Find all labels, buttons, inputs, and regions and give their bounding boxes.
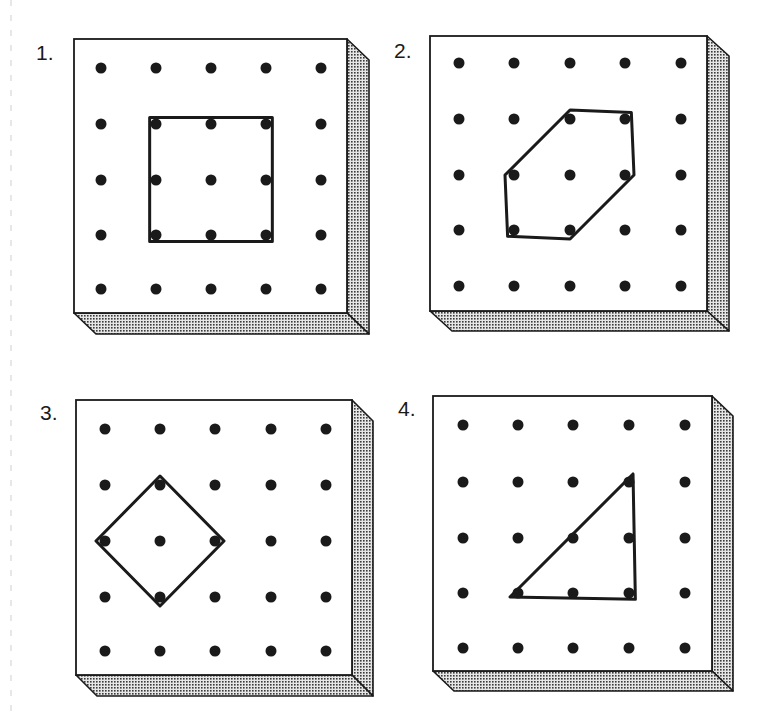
peg bbox=[206, 175, 217, 186]
peg bbox=[454, 281, 465, 292]
peg bbox=[568, 533, 579, 544]
peg bbox=[261, 230, 272, 241]
peg bbox=[680, 643, 691, 654]
peg bbox=[620, 170, 631, 181]
peg bbox=[96, 119, 107, 130]
peg bbox=[261, 175, 272, 186]
geoboard-1: 1. bbox=[36, 39, 369, 334]
peg bbox=[624, 420, 635, 431]
peg bbox=[680, 420, 691, 431]
peg bbox=[565, 58, 576, 69]
peg bbox=[151, 175, 162, 186]
peg bbox=[513, 477, 524, 488]
peg bbox=[155, 480, 166, 491]
peg bbox=[565, 281, 576, 292]
peg bbox=[210, 592, 221, 603]
peg bbox=[100, 480, 111, 491]
peg bbox=[321, 480, 332, 491]
peg bbox=[676, 58, 687, 69]
peg bbox=[316, 230, 327, 241]
peg bbox=[676, 114, 687, 125]
peg bbox=[316, 284, 327, 295]
board-side-right bbox=[707, 36, 729, 331]
geoboard-3: 3. bbox=[40, 400, 373, 696]
peg bbox=[151, 63, 162, 74]
peg bbox=[155, 646, 166, 657]
geoboard-diagram: 1.2.3.4. bbox=[0, 0, 771, 720]
peg bbox=[316, 175, 327, 186]
peg bbox=[565, 170, 576, 181]
peg bbox=[620, 114, 631, 125]
peg bbox=[155, 424, 166, 435]
board-side-right bbox=[712, 396, 733, 691]
peg bbox=[454, 114, 465, 125]
peg bbox=[206, 63, 217, 74]
peg bbox=[321, 424, 332, 435]
peg bbox=[624, 588, 635, 599]
peg bbox=[151, 119, 162, 130]
peg bbox=[509, 281, 520, 292]
peg bbox=[509, 170, 520, 181]
peg bbox=[458, 643, 469, 654]
peg bbox=[266, 536, 277, 547]
peg bbox=[676, 170, 687, 181]
peg bbox=[454, 170, 465, 181]
geoboard-2: 2. bbox=[394, 36, 729, 331]
peg bbox=[624, 477, 635, 488]
board-side-bottom bbox=[430, 311, 729, 331]
board-number-label: 3. bbox=[40, 401, 58, 424]
board-number-label: 1. bbox=[36, 41, 54, 64]
board-side-right bbox=[352, 400, 373, 696]
peg bbox=[458, 533, 469, 544]
peg bbox=[513, 588, 524, 599]
peg bbox=[620, 281, 631, 292]
board-side-right bbox=[347, 39, 369, 334]
peg bbox=[568, 477, 579, 488]
peg bbox=[261, 119, 272, 130]
geoboard-4: 4. bbox=[398, 396, 733, 691]
peg bbox=[206, 119, 217, 130]
peg bbox=[100, 592, 111, 603]
peg bbox=[321, 646, 332, 657]
board-side-bottom bbox=[76, 675, 373, 696]
peg bbox=[155, 536, 166, 547]
peg bbox=[454, 225, 465, 236]
board-side-bottom bbox=[433, 671, 733, 691]
peg bbox=[568, 643, 579, 654]
peg bbox=[261, 63, 272, 74]
peg bbox=[316, 63, 327, 74]
peg bbox=[210, 480, 221, 491]
peg bbox=[624, 533, 635, 544]
peg bbox=[151, 230, 162, 241]
peg bbox=[261, 284, 272, 295]
peg bbox=[210, 646, 221, 657]
peg bbox=[96, 230, 107, 241]
peg bbox=[266, 480, 277, 491]
board-number-label: 4. bbox=[398, 397, 416, 420]
peg bbox=[266, 646, 277, 657]
peg bbox=[151, 284, 162, 295]
board-side-bottom bbox=[74, 313, 369, 334]
peg bbox=[565, 225, 576, 236]
peg bbox=[509, 225, 520, 236]
peg bbox=[509, 58, 520, 69]
peg bbox=[321, 536, 332, 547]
peg bbox=[458, 588, 469, 599]
peg bbox=[100, 424, 111, 435]
peg bbox=[316, 119, 327, 130]
peg bbox=[210, 536, 221, 547]
peg bbox=[620, 225, 631, 236]
peg bbox=[568, 420, 579, 431]
peg bbox=[96, 63, 107, 74]
peg bbox=[620, 58, 631, 69]
peg bbox=[676, 281, 687, 292]
peg bbox=[266, 592, 277, 603]
peg bbox=[96, 175, 107, 186]
board-number-label: 2. bbox=[394, 39, 412, 62]
peg bbox=[100, 646, 111, 657]
peg bbox=[676, 225, 687, 236]
peg bbox=[206, 230, 217, 241]
peg bbox=[513, 533, 524, 544]
geoboards-group: 1.2.3.4. bbox=[36, 36, 733, 696]
peg bbox=[206, 284, 217, 295]
